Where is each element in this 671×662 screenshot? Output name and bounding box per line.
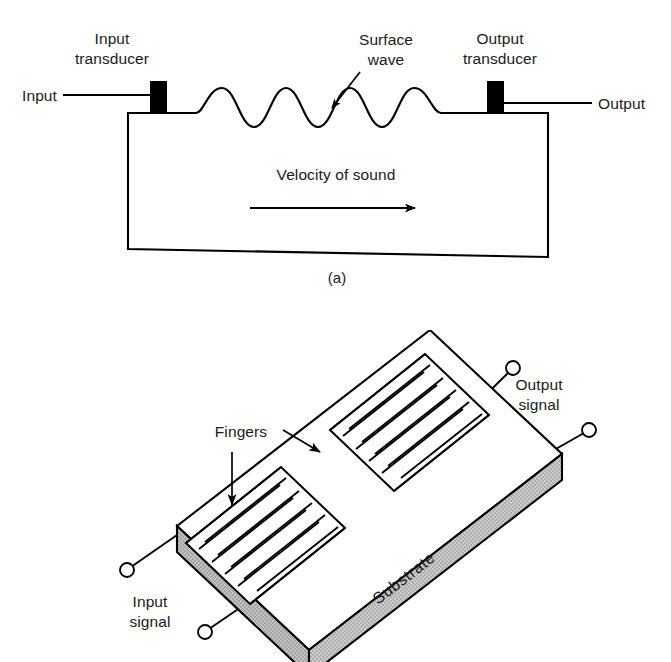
output-signal-label-line2: signal [518, 396, 559, 413]
input-transducer-label-line2: transducer [75, 50, 149, 67]
surface-wave-label-line2: wave [367, 51, 405, 68]
input-signal-label-line1: Input [133, 593, 169, 610]
output-signal-label-line1: Output [515, 376, 563, 393]
panel-b-diagram: Fingers Substrate Input signal Output si… [0, 330, 671, 662]
output-transducer-label-line2: transducer [463, 50, 537, 67]
output-transducer-electrode [487, 81, 504, 113]
input-transducer-label-line1: Input [95, 30, 131, 47]
output-terminal-circle-lower[interactable] [582, 423, 596, 437]
input-label: Input [22, 87, 58, 104]
panel-a-caption: (a) [328, 269, 346, 286]
input-signal-label-line2: signal [129, 613, 170, 630]
fingers-label: Fingers [215, 423, 268, 440]
output-label: Output [598, 95, 646, 112]
input-transducer-electrode [150, 81, 167, 113]
velocity-of-sound-label: Velocity of sound [277, 166, 396, 183]
output-transducer-label-line1: Output [476, 30, 524, 47]
surface-wave-label-line1: Surface [359, 31, 413, 48]
input-terminal-circle-lower[interactable] [198, 625, 212, 639]
output-terminal-circle-upper[interactable] [506, 361, 520, 375]
panel-a-diagram: Input transducer Output transducer Surfa… [0, 0, 671, 310]
input-terminal-circle-upper[interactable] [120, 563, 134, 577]
